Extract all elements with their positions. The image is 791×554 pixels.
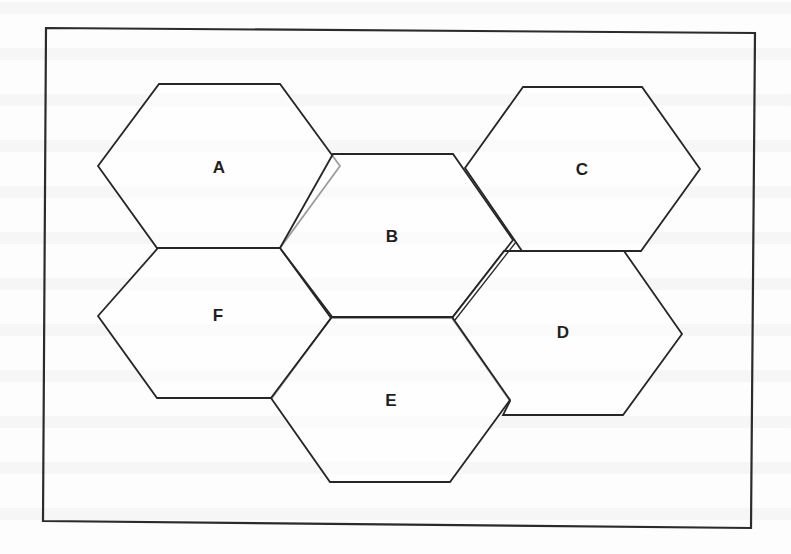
cell-label-b: B bbox=[386, 227, 398, 246]
cell-label-e: E bbox=[385, 391, 396, 410]
cell-label-c: C bbox=[576, 160, 588, 179]
cell-label-a: A bbox=[213, 158, 225, 177]
cell-label-f: F bbox=[213, 306, 223, 325]
cell-label-d: D bbox=[557, 323, 569, 342]
scanned-page: A C F B D E bbox=[0, 0, 791, 554]
hexagon-cell-diagram: A C F B D E bbox=[0, 0, 791, 554]
